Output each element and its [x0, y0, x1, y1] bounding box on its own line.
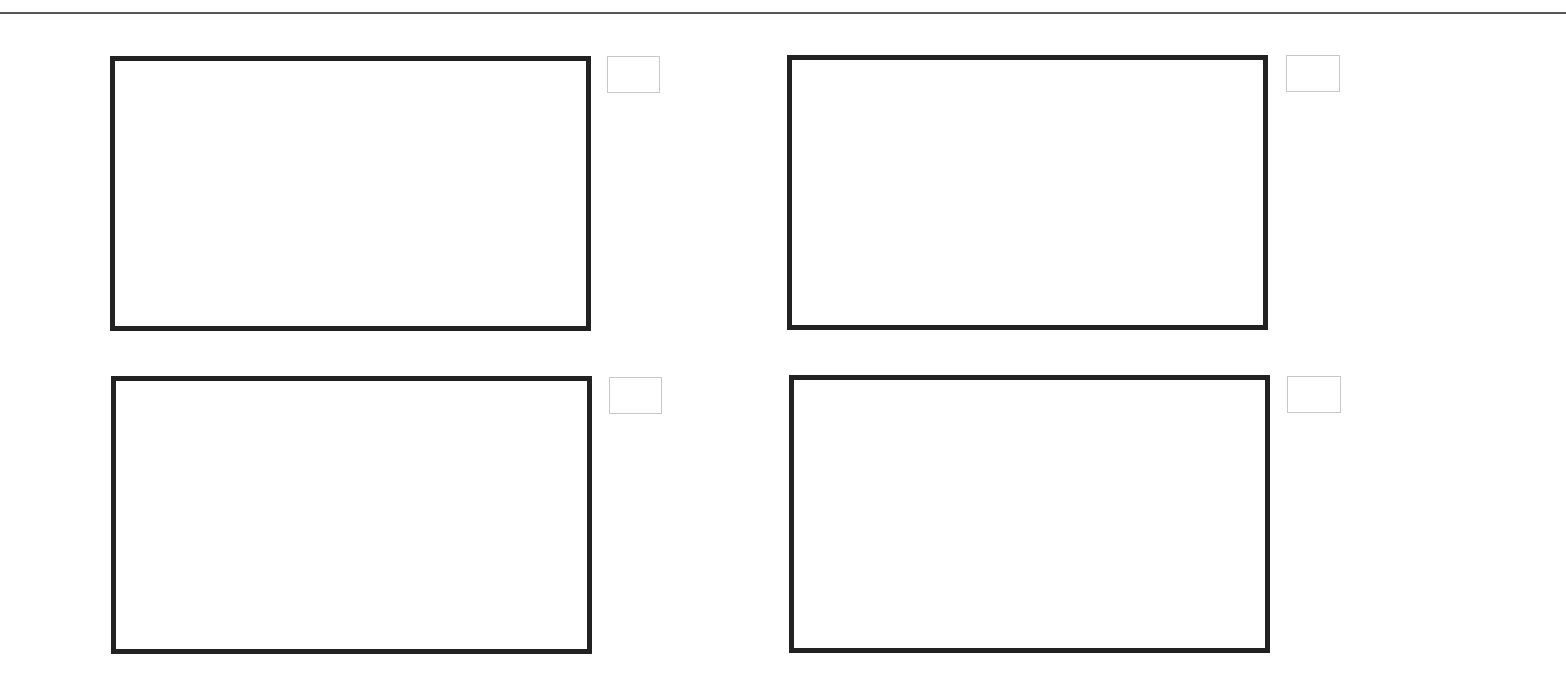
- panel-frame-top-left[interactable]: [110, 56, 591, 331]
- panel-frame-bottom-right[interactable]: [789, 375, 1270, 653]
- panel-checkbox-top-right[interactable]: [1286, 55, 1340, 92]
- panel-checkbox-bottom-right[interactable]: [1287, 376, 1341, 413]
- page-canvas: [0, 0, 1566, 687]
- panel-frame-top-right[interactable]: [787, 55, 1268, 330]
- panel-checkbox-top-left[interactable]: [607, 56, 660, 93]
- panel-frame-bottom-left[interactable]: [111, 376, 592, 654]
- panel-checkbox-bottom-left[interactable]: [609, 377, 662, 414]
- top-divider: [0, 12, 1566, 14]
